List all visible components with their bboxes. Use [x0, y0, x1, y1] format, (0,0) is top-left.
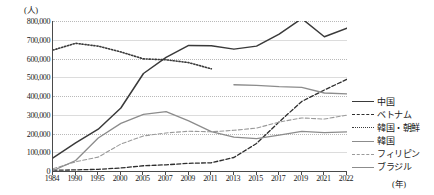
x-axis-tick-label: 2007 — [158, 174, 172, 183]
series-line — [53, 43, 211, 69]
legend-item-label: 中国 — [377, 97, 394, 107]
x-axis-tick-mark — [210, 171, 211, 175]
chart-legend: 中国ベトナム韓国・朝鮮韓国フィリピンブラジル — [352, 96, 434, 173]
legend-item[interactable]: 韓国・朝鮮 — [352, 122, 434, 133]
legend-line-swatch-icon — [352, 123, 374, 132]
series-line — [53, 112, 347, 171]
legend-item-label: ベトナム — [377, 110, 411, 120]
x-axis-tick-label: 2011 — [203, 174, 217, 183]
x-axis-tick-mark — [323, 171, 324, 175]
x-axis-tick-mark — [188, 171, 189, 175]
y-axis-tick-label: 200,000 — [2, 129, 50, 138]
y-axis-tick-label: 400,000 — [2, 92, 50, 101]
legend-item-label: 韓国・朝鮮 — [377, 123, 420, 133]
x-axis-tick-label: 2021 — [316, 174, 330, 183]
x-axis-unit-label: (年) — [392, 177, 406, 189]
x-axis-tick-label: 1984 — [45, 174, 59, 183]
series-line — [234, 85, 347, 94]
legend-line-swatch-icon — [352, 110, 374, 119]
line-chart: (人) 800,000700,000600,000500,000400,0003… — [0, 0, 434, 195]
legend-item-label: フィリピン — [377, 149, 420, 159]
x-axis-tick-label: 2005 — [135, 174, 149, 183]
x-axis-tick-mark — [52, 171, 53, 175]
x-axis-tick-mark — [165, 171, 166, 175]
legend-line-swatch-icon — [352, 137, 374, 146]
x-axis-tick-labels: 1984199019952000200520072009201120132015… — [0, 174, 434, 188]
y-axis-tick-label: 500,000 — [2, 73, 50, 82]
x-axis-tick-label: 2000 — [113, 174, 127, 183]
legend-item-label: 韓国 — [377, 136, 394, 146]
legend-item[interactable]: 韓国 — [352, 136, 434, 147]
x-axis-tick-label: 1995 — [90, 174, 104, 183]
x-axis-tick-mark — [142, 171, 143, 175]
legend-item[interactable]: ベトナム — [352, 109, 434, 120]
x-axis-tick-mark — [301, 171, 302, 175]
x-axis-tick-label: 2009 — [180, 174, 194, 183]
y-axis-tick-label: 300,000 — [2, 110, 50, 119]
y-axis-tick-label: 800,000 — [2, 17, 50, 26]
legend-line-swatch-icon — [352, 163, 374, 172]
y-axis-tick-label: 600,000 — [2, 54, 50, 63]
x-axis-tick-label: 2013 — [226, 174, 240, 183]
x-axis-tick-mark — [233, 171, 234, 175]
x-axis-tick-label: 1990 — [67, 174, 81, 183]
x-axis-tick-mark — [97, 171, 98, 175]
y-axis-tick-label: 100,000 — [2, 148, 50, 157]
x-axis-tick-label: 2022 — [339, 174, 353, 183]
legend-item-label: ブラジル — [377, 162, 411, 172]
x-axis-tick-label: 2015 — [248, 174, 262, 183]
legend-item[interactable]: フィリピン — [352, 149, 434, 160]
y-axis-tick-label: 700,000 — [2, 35, 50, 44]
x-axis-tick-label: 2017 — [271, 174, 285, 183]
x-axis-tick-label: 2019 — [294, 174, 308, 183]
plot-area — [52, 21, 347, 172]
x-axis-tick-mark — [75, 171, 76, 175]
series-line — [53, 21, 347, 158]
series-lines — [53, 21, 347, 171]
legend-line-swatch-icon — [352, 150, 374, 159]
x-axis-tick-mark — [278, 171, 279, 175]
x-axis-tick-mark — [256, 171, 257, 175]
x-axis-tick-mark — [346, 171, 347, 175]
y-axis-tick-labels: 800,000700,000600,000500,000400,000300,0… — [0, 0, 50, 195]
series-line — [53, 115, 347, 169]
legend-line-swatch-icon — [352, 97, 374, 106]
series-line — [53, 79, 347, 170]
legend-item[interactable]: ブラジル — [352, 162, 434, 173]
x-axis-tick-mark — [120, 171, 121, 175]
legend-item[interactable]: 中国 — [352, 96, 434, 107]
